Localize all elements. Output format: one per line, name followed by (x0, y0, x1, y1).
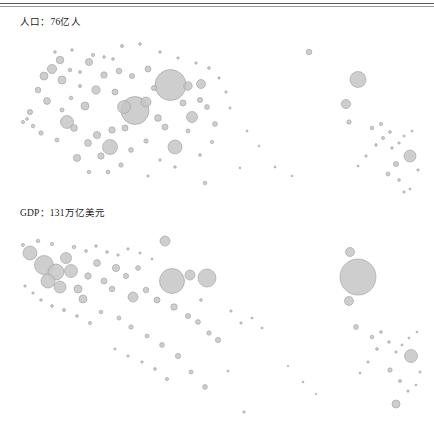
country-bubble (213, 122, 218, 127)
country-bubble (106, 251, 109, 254)
country-bubble (127, 355, 129, 357)
country-bubble (44, 98, 51, 105)
country-bubble (207, 331, 211, 335)
country-bubble (227, 370, 229, 372)
country-bubble (379, 122, 382, 125)
country-bubble (159, 51, 162, 54)
country-bubble (196, 320, 201, 325)
country-bubble (197, 80, 206, 89)
country-bubble (54, 51, 57, 54)
country-bubble (230, 310, 232, 312)
country-bubble (85, 250, 88, 253)
country-bubble (114, 348, 116, 350)
country-bubble (376, 348, 379, 351)
country-bubble (185, 270, 195, 280)
country-bubble (119, 163, 123, 167)
country-bubble (160, 343, 165, 348)
country-bubble (118, 101, 131, 114)
country-bubble (203, 385, 208, 390)
country-bubble (388, 368, 392, 372)
country-bubble (409, 188, 411, 190)
country-bubble (103, 56, 106, 59)
country-bubble (61, 116, 74, 129)
country-bubble (85, 58, 92, 65)
country-bubble (91, 53, 94, 56)
country-bubble (393, 161, 398, 166)
country-bubble (65, 265, 78, 278)
country-bubble (85, 273, 91, 279)
country-bubble (21, 243, 24, 246)
country-bubble (88, 321, 91, 324)
country-bubble (101, 72, 107, 78)
country-bubble (112, 89, 118, 95)
country-bubble (123, 273, 128, 278)
country-bubble (139, 43, 142, 46)
country-bubble (69, 96, 73, 100)
country-bubble (274, 166, 276, 168)
country-bubble (48, 264, 64, 280)
country-bubble (117, 254, 119, 256)
country-bubble (87, 170, 91, 174)
country-bubble (251, 317, 253, 319)
country-bubble (189, 370, 193, 374)
country-bubble (144, 139, 148, 143)
country-bubble (154, 368, 157, 371)
country-bubble (112, 264, 119, 271)
country-bubble (106, 170, 110, 174)
country-bubble (367, 361, 369, 363)
country-bubble (145, 334, 149, 338)
country-bubble (109, 286, 115, 292)
country-bubble (388, 341, 391, 344)
country-bubble (79, 71, 82, 74)
country-bubble (129, 148, 134, 153)
country-bubble (27, 109, 32, 114)
country-bubble (141, 361, 143, 363)
country-bubble (109, 127, 115, 133)
country-bubble (151, 85, 156, 90)
country-bubble (184, 82, 192, 90)
country-bubble (79, 295, 87, 303)
country-bubble (40, 72, 48, 80)
country-bubble (407, 390, 409, 392)
country-bubble (93, 131, 100, 138)
country-bubble (200, 299, 203, 302)
country-bubble (203, 181, 207, 185)
country-bubble (73, 154, 80, 161)
country-bubble (416, 331, 418, 333)
country-bubble (151, 258, 153, 260)
country-bubble (357, 165, 359, 167)
country-bubble (127, 248, 129, 250)
country-bubble (347, 120, 351, 124)
country-bubble (205, 105, 210, 110)
country-bubble (159, 159, 161, 161)
country-bubble (174, 166, 177, 169)
country-bubble (403, 191, 405, 193)
country-bubble (199, 154, 202, 157)
country-bubble (58, 76, 66, 84)
country-bubble (116, 68, 122, 74)
country-bubble (239, 167, 241, 169)
country-bubble (74, 285, 82, 293)
country-bubble (386, 172, 390, 176)
country-bubble (210, 140, 213, 143)
country-bubble (99, 310, 103, 314)
figure-page: 人口：76亿人 GDP：131万亿美元 (0, 0, 434, 423)
country-bubble (147, 175, 149, 177)
country-bubble (141, 97, 151, 107)
country-bubble (345, 297, 354, 306)
country-bubble (103, 140, 118, 155)
country-bubble (72, 245, 76, 249)
population-bubble-group (21, 43, 419, 194)
country-bubble (129, 73, 134, 78)
country-bubble (341, 99, 350, 108)
country-bubble (177, 57, 179, 59)
country-bubble (258, 145, 260, 147)
country-bubble (41, 274, 55, 288)
country-bubble (346, 248, 355, 257)
country-bubble (225, 91, 227, 93)
country-bubble (398, 179, 401, 182)
country-bubble (35, 87, 41, 93)
country-bubble (218, 77, 220, 79)
gdp-panel-label: GDP：131万亿美元 (20, 205, 105, 219)
country-bubble (380, 331, 383, 334)
